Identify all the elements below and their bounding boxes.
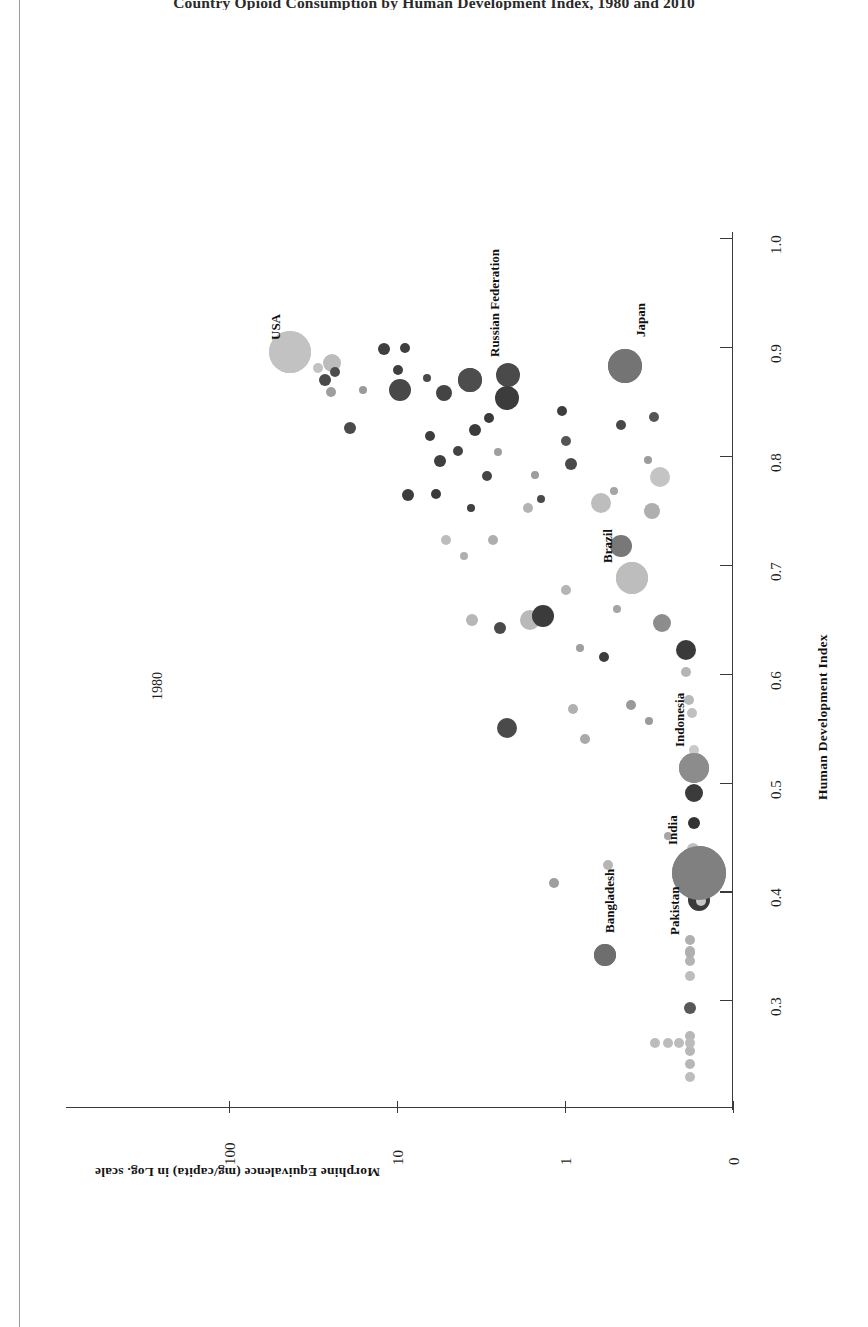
data-bubble <box>482 471 492 481</box>
morphine-axis-line <box>66 1107 734 1108</box>
data-bubble <box>591 493 611 513</box>
data-bubble <box>402 489 414 501</box>
hdi-tick-label: 1.0 <box>768 235 785 254</box>
data-bubble <box>497 718 517 738</box>
data-bubble <box>523 503 533 513</box>
data-bubble <box>674 1038 684 1048</box>
morphine-tick-label: 1 <box>558 1158 575 1166</box>
data-bubble <box>580 734 590 744</box>
data-bubble <box>685 935 695 945</box>
data-bubble <box>393 365 403 375</box>
data-bubble <box>626 700 636 710</box>
year-annotation: 1980 <box>150 672 166 700</box>
data-bubble <box>531 471 539 479</box>
hdi-tick <box>720 783 732 784</box>
data-bubble <box>460 552 468 560</box>
data-bubble <box>400 343 410 353</box>
hdi-tick-label: 0.7 <box>768 562 785 581</box>
data-bubble <box>653 614 671 632</box>
hdi-tick <box>720 674 732 675</box>
data-bubble <box>685 1038 695 1048</box>
data-bubble <box>425 431 435 441</box>
data-bubble <box>685 1072 695 1082</box>
hdi-tick-label: 0.3 <box>768 998 785 1017</box>
data-bubble <box>644 503 660 519</box>
data-bubble <box>650 467 670 487</box>
data-bubble <box>423 374 431 382</box>
country-label-usa: USA <box>268 314 284 340</box>
data-bubble <box>313 363 323 373</box>
data-bubble <box>610 487 618 495</box>
data-bubble <box>434 455 446 467</box>
data-bubble <box>441 535 451 545</box>
data-bubble <box>496 363 520 387</box>
country-label-pakistan: Pakistan <box>667 887 683 935</box>
data-bubble <box>494 622 506 634</box>
data-bubble <box>469 424 481 436</box>
hdi-tick-label: 0.5 <box>768 780 785 799</box>
morphine-tick-label: 0 <box>726 1158 743 1166</box>
morphine-tick-label: 10 <box>390 1150 407 1165</box>
hdi-tick <box>720 891 732 892</box>
hdi-tick <box>720 565 732 566</box>
data-bubble <box>532 605 554 627</box>
data-bubble <box>685 784 703 802</box>
morphine-tick <box>733 1101 734 1113</box>
country-bubble-bangladesh <box>594 944 616 966</box>
data-bubble <box>561 585 571 595</box>
data-bubble <box>359 386 367 394</box>
data-bubble <box>431 489 441 499</box>
bubble-chart-figure: Country Opioid Consumption by Human Deve… <box>0 0 868 1327</box>
chart-title: Country Opioid Consumption by Human Deve… <box>0 0 868 10</box>
morphine-axis-title: Morphine Equivalence (mg/capita) in Log.… <box>95 1164 380 1180</box>
data-bubble <box>561 436 571 446</box>
hdi-axis-title: Human Development Index <box>815 634 831 800</box>
data-bubble <box>685 1059 695 1069</box>
morphine-tick <box>397 1101 398 1113</box>
hdi-tick-label: 0.9 <box>768 344 785 363</box>
data-bubble <box>330 367 340 377</box>
data-bubble <box>565 458 577 470</box>
data-bubble <box>613 605 621 613</box>
hdi-tick <box>720 456 732 457</box>
data-bubble <box>557 406 567 416</box>
data-bubble <box>681 667 691 677</box>
data-bubble <box>644 456 652 464</box>
data-bubble <box>344 422 356 434</box>
country-bubble-indonesia <box>679 753 709 783</box>
data-bubble <box>688 817 700 829</box>
morphine-tick <box>565 1101 566 1113</box>
country-bubble-japan <box>608 349 642 383</box>
country-bubble-russian-federation <box>458 368 482 392</box>
data-bubble <box>568 704 578 714</box>
data-bubble <box>663 1038 673 1048</box>
data-bubble <box>494 448 502 456</box>
data-bubble <box>684 1002 696 1014</box>
data-bubble <box>378 343 390 355</box>
data-bubble <box>649 412 659 422</box>
hdi-tick-label: 0.4 <box>768 889 785 908</box>
morphine-tick <box>229 1101 230 1113</box>
country-label-japan: Japan <box>633 303 649 337</box>
hdi-tick <box>720 238 732 239</box>
hdi-tick <box>720 1000 732 1001</box>
hdi-axis-line <box>732 232 733 1110</box>
country-label-bangladesh: Bangladesh <box>602 869 618 933</box>
country-bubble-brazil <box>616 562 648 594</box>
data-bubble <box>650 1038 660 1048</box>
data-bubble <box>436 385 452 401</box>
country-bubble-pakistan <box>685 948 695 958</box>
data-bubble <box>599 652 609 662</box>
data-bubble <box>549 878 559 888</box>
data-bubble <box>484 413 494 423</box>
data-bubble <box>319 374 331 386</box>
data-bubble <box>687 708 697 718</box>
hdi-tick <box>720 347 732 348</box>
data-bubble <box>326 387 336 397</box>
hdi-tick-label: 0.8 <box>768 453 785 472</box>
data-bubble <box>495 386 519 410</box>
data-bubble <box>467 504 475 512</box>
data-bubble <box>488 535 498 545</box>
country-label-russian-federation: Russian Federation <box>487 249 503 357</box>
data-bubble <box>389 379 411 401</box>
